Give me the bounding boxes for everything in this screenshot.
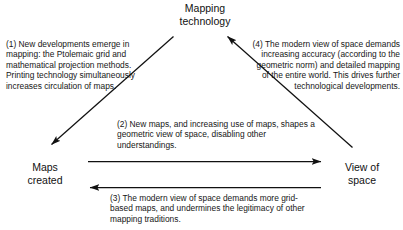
note-2-text: (2) New maps, and increasing use of maps… — [117, 119, 323, 150]
node-view-of-space: View of space — [327, 161, 397, 186]
node-maps-created: Maps created — [8, 161, 82, 186]
note-3-text: (3) The modern view of space demands mor… — [110, 193, 310, 224]
note-4-text: (4) The modern view of space demands inc… — [248, 39, 400, 91]
causal-loop-diagram: Mapping technology Maps created View of … — [0, 0, 403, 230]
note-1-text: (1) New developments emerge in mapping: … — [6, 39, 152, 91]
node-mapping-technology: Mapping technology — [146, 2, 264, 27]
